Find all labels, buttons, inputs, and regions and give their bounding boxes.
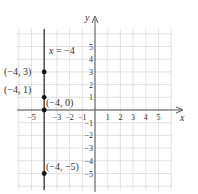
x-tick-label: 4: [144, 113, 148, 122]
data-point: [42, 108, 47, 113]
data-point: [42, 171, 47, 176]
x-tick-label: 5: [157, 113, 161, 122]
y-tick-label: 2: [89, 81, 93, 90]
x-tick-label: 2: [118, 113, 122, 122]
x-tick-label: −3: [53, 113, 62, 122]
x-tick-label: 3: [131, 113, 135, 122]
data-point: [42, 70, 47, 75]
y-tick-label: −1: [84, 119, 93, 128]
y-tick-label: 4: [89, 55, 93, 64]
y-tick-label: 1: [89, 93, 93, 102]
axes: xy: [17, 12, 185, 192]
x-axis-label: x: [179, 112, 185, 123]
y-tick-label: −4: [84, 157, 93, 166]
x-tick-label: −5: [27, 113, 36, 122]
data-point-label: (−4, 0): [46, 97, 73, 109]
y-axis-label: y: [84, 12, 90, 23]
data-point-label: (−4, 1): [4, 84, 31, 96]
data-point-label: (−4, 3): [4, 66, 31, 78]
x-tick-label: −2: [65, 113, 74, 122]
y-tick-label: −5: [84, 170, 93, 179]
x-tick-label: 1: [106, 113, 110, 122]
data-point-label: (−4, −5): [46, 161, 79, 173]
y-tick-label: −2: [84, 131, 93, 140]
y-tick-label: −3: [84, 144, 93, 153]
y-tick-label: 5: [89, 43, 93, 52]
vertical-line-label: x = −4: [48, 45, 75, 56]
coordinate-plane: xy −5−3−2−11234554321−1−2−3−4−5 x = −4 (…: [0, 0, 198, 194]
y-tick-label: 3: [89, 68, 93, 77]
